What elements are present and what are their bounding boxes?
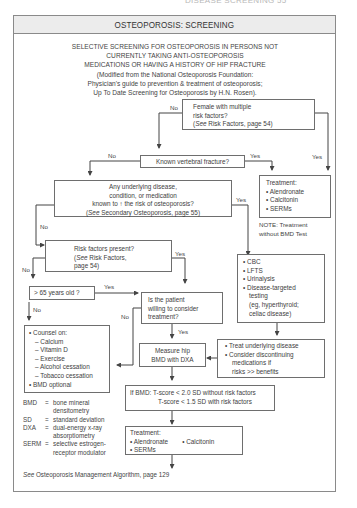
legend-row: BMD=bone mineraldensitometry [23, 399, 113, 416]
treat-item: • Consider discontinuing [225, 351, 324, 360]
node-text: known to ↑ the risk of osteoporosis? [55, 200, 231, 209]
edge-label-underlying-no: No [40, 223, 48, 230]
lab-item-detail: (eg, hyperthyroid; [243, 301, 324, 310]
node-text: Measure hip [140, 347, 205, 356]
edge-label-risk-yes: Yes [175, 250, 185, 257]
treat-item-detail: medications if [225, 359, 324, 368]
lab-item: • Urinalysis [243, 275, 324, 284]
counsel-last: • BMD optional [29, 381, 109, 390]
node-willing-treatment: Is the patient willing to consider treat… [141, 292, 223, 324]
node-text: Female with multiple [193, 103, 314, 112]
legend-row: SERM=selective estrogen-receptor modulat… [23, 440, 113, 457]
node-text: If BMD: T-score < 2.0 SD without risk fa… [130, 389, 274, 398]
node-reference: (See Risk Factors, [74, 254, 171, 263]
node-treatment-top: Treatment: • Alendronate • Calcitonin • … [259, 175, 331, 218]
lab-item: • Disease-targeted [243, 284, 324, 293]
node-text: risk factors? [193, 112, 314, 121]
edge-label-underlying-yes: Yes [236, 196, 246, 203]
node-reference: (See Risk Factors, page 54) [193, 120, 314, 129]
legend-row: DXA=dual-energy x-rayabsorptiometry [23, 424, 113, 441]
node-heading: Treatment: [266, 179, 330, 188]
edge-label-age-no: No [33, 306, 41, 313]
treat-item-detail: risks >> benefits [225, 368, 324, 377]
edge-label-risk-no: No [22, 266, 30, 273]
edge-label-female-no: No [170, 104, 178, 111]
edge-label-vertebral-yes: Yes [250, 152, 260, 159]
node-female-risk-factors: Female with multiple risk factors? (See … [182, 99, 315, 130]
lab-item: • CBC [243, 258, 324, 267]
edge-label-female-yes: Yes [312, 153, 322, 160]
counsel-heading: • Counsel on: [29, 329, 109, 338]
node-text: condition, or medication [55, 192, 231, 201]
note-without-bmd: NOTE: Treatment without BMD Test [259, 221, 307, 238]
treatment-item: • SERMs [266, 205, 330, 214]
node-reference: (See Secondary Osteoporosis, page 55) [55, 209, 231, 218]
node-measure-hip-bmd: Measure hip BMD with DXA [139, 343, 206, 367]
abbreviation-legend: BMD=bone mineraldensitometry SD=standard… [23, 399, 113, 457]
lab-item: • LFTS [243, 267, 324, 276]
edge-label-age-yes: Yes [104, 283, 114, 290]
node-text: BMD with DXA [140, 356, 205, 365]
node-text: Risk factors present? [74, 245, 171, 254]
counsel-subitem: – Vitamin D [29, 346, 109, 355]
node-text: Any underlying disease, [55, 183, 231, 192]
node-counsel: • Counsel on: – Calcium – Vitamin D – Ex… [24, 325, 110, 393]
node-vertebral-fracture: Known vertebral fracture? [140, 155, 245, 168]
node-text: treatment? [148, 313, 222, 322]
node-age-over-65: > 65 years old ? [29, 286, 95, 300]
node-text: page 54) [74, 262, 171, 271]
node-treat-underlying: • Treat underlying disease • Consider di… [217, 339, 325, 378]
treatment-item: • Alendronate• Calcitonin [130, 438, 242, 447]
counsel-subitem: – Tobacco cessation [29, 372, 109, 381]
node-lab-tests: • CBC • LFTS • Urinalysis • Disease-targ… [237, 254, 325, 323]
edge-label-willing-yes: Yes [178, 328, 188, 335]
treatment-item: • SERMs [130, 446, 242, 455]
counsel-subitem: – Calcium [29, 338, 109, 347]
footer-reference: See Osteoporosis Management Algorithm, p… [23, 471, 169, 478]
edge-label-vertebral-no: No [108, 152, 116, 159]
treat-item: • Treat underlying disease [225, 342, 324, 351]
node-heading: Treatment: [130, 429, 242, 438]
counsel-subitem: – Alcohol cessation [29, 363, 109, 372]
lab-item-detail: testing [243, 292, 324, 301]
lab-item-detail: celiac disease) [243, 310, 324, 319]
node-text: T-score < 1.5 SD with risk factors [130, 398, 274, 407]
legend-row: SD=standard deviation [23, 416, 113, 424]
treatment-item: • Alendronate [266, 188, 330, 197]
counsel-subitem: – Exercise [29, 355, 109, 364]
node-risk-factors-present: Risk factors present? (See Risk Factors,… [45, 240, 172, 272]
node-text: willing to consider [148, 305, 222, 314]
edge-label-willing-no: No [121, 313, 129, 320]
node-bmd-criteria: If BMD: T-score < 2.0 SD without risk fa… [125, 385, 275, 411]
node-treatment-bottom: Treatment: • Alendronate• Calcitonin • S… [125, 426, 243, 455]
treatment-item: • Calcitonin [266, 196, 330, 205]
node-text: Is the patient [148, 296, 222, 305]
node-underlying-disease: Any underlying disease, condition, or me… [54, 180, 232, 217]
